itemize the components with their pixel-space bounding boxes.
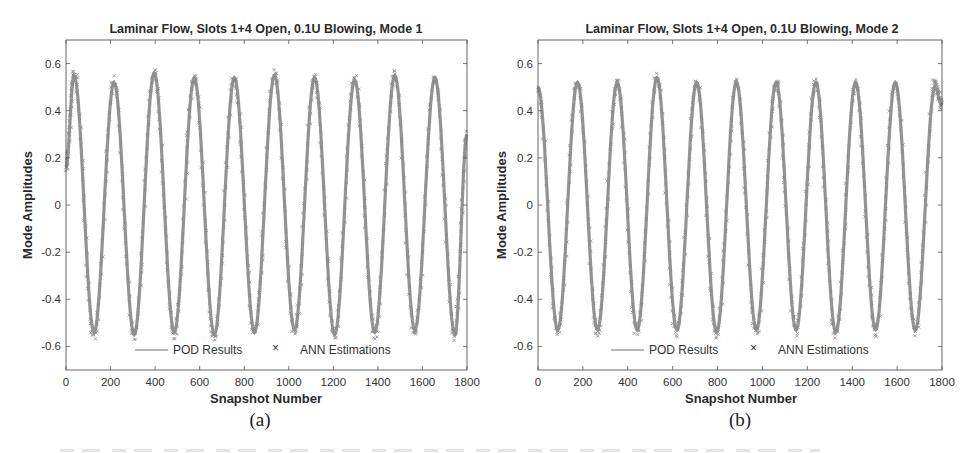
x-tick-label: 1600 bbox=[410, 376, 436, 388]
y-tick-label: -0.2 bbox=[513, 246, 533, 258]
legend-label-pod: POD Results bbox=[173, 343, 242, 357]
x-tick-label: 200 bbox=[101, 376, 120, 388]
x-tick-label: 1000 bbox=[276, 376, 302, 388]
y-tick-label: 0.6 bbox=[45, 58, 61, 70]
x-tick-label: 0 bbox=[535, 376, 541, 388]
x-axis-label: Snapshot Number bbox=[210, 391, 322, 406]
x-tick-label: 600 bbox=[190, 376, 209, 388]
x-tick-label: 800 bbox=[708, 376, 727, 388]
y-tick-label: 0 bbox=[55, 199, 61, 211]
figure-panel-a: Laminar Flow, Slots 1+4 Open, 0.1U Blowi… bbox=[0, 0, 484, 453]
cropped-caption-text bbox=[0, 446, 969, 453]
legend-label-ann: ANN Estimations bbox=[300, 343, 391, 357]
x-tick-label: 1000 bbox=[750, 376, 776, 388]
x-tick-label: 1200 bbox=[321, 376, 347, 388]
y-tick-label: -0.4 bbox=[41, 293, 61, 305]
subfigure-label: (b) bbox=[729, 409, 751, 431]
subfigure-label: (a) bbox=[249, 409, 270, 431]
y-tick-label: 0.4 bbox=[45, 105, 62, 117]
x-tick-label: 400 bbox=[618, 376, 637, 388]
chart-title: Laminar Flow, Slots 1+4 Open, 0.1U Blowi… bbox=[585, 22, 898, 36]
legend: POD Results × ANN Estimations bbox=[600, 341, 900, 359]
y-tick-label: -0.6 bbox=[513, 340, 533, 352]
x-tick-label: 800 bbox=[235, 376, 254, 388]
x-tick-label: 0 bbox=[63, 376, 69, 388]
x-tick-label: 1400 bbox=[365, 376, 391, 388]
x-axis-label: Snapshot Number bbox=[685, 391, 797, 406]
chart-title: Laminar Flow, Slots 1+4 Open, 0.1U Blowi… bbox=[109, 22, 422, 36]
y-tick-label: 0 bbox=[527, 199, 533, 211]
plot-area bbox=[536, 72, 943, 340]
plot-area bbox=[64, 68, 468, 342]
legend: POD Results × ANN Estimations bbox=[128, 341, 428, 359]
y-tick-label: 0.6 bbox=[517, 58, 533, 70]
legend-label-ann: ANN Estimations bbox=[778, 343, 869, 357]
y-tick-label: 0.2 bbox=[517, 152, 533, 164]
x-tick-label: 1600 bbox=[884, 376, 910, 388]
y-axis-label: Mode Amplitudes bbox=[494, 151, 509, 259]
y-tick-label: 0.4 bbox=[517, 105, 534, 117]
y-axis-label: Mode Amplitudes bbox=[20, 151, 35, 259]
chart-mode-1: Laminar Flow, Slots 1+4 Open, 0.1U Blowi… bbox=[0, 0, 484, 453]
x-tick-label: 1800 bbox=[929, 376, 955, 388]
x-tick-label: 1400 bbox=[839, 376, 865, 388]
x-tick-label: 1200 bbox=[795, 376, 821, 388]
legend-marker-swatch: × bbox=[272, 341, 279, 355]
chart-mode-2: Laminar Flow, Slots 1+4 Open, 0.1U Blowi… bbox=[484, 0, 969, 453]
y-tick-label: -0.6 bbox=[41, 340, 61, 352]
x-tick-label: 400 bbox=[146, 376, 165, 388]
x-tick-label: 600 bbox=[663, 376, 682, 388]
y-tick-label: -0.4 bbox=[513, 293, 533, 305]
y-tick-label: 0.2 bbox=[45, 152, 61, 164]
x-tick-label: 200 bbox=[573, 376, 592, 388]
legend-marker-swatch: × bbox=[750, 341, 757, 355]
x-tick-label: 1800 bbox=[454, 376, 480, 388]
y-tick-label: -0.2 bbox=[41, 246, 61, 258]
figure-panel-b: Laminar Flow, Slots 1+4 Open, 0.1U Blowi… bbox=[484, 0, 969, 453]
series-pod-results bbox=[66, 73, 467, 335]
legend-label-pod: POD Results bbox=[649, 343, 718, 357]
